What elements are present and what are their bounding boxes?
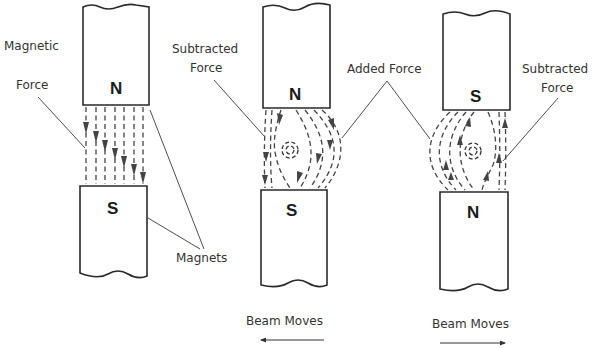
force-label: Force	[16, 78, 48, 92]
bottom-magnet-n: N	[440, 192, 508, 291]
beam-moves-caption: Beam Moves	[432, 317, 509, 331]
added-force-label: Added Force	[347, 62, 422, 76]
pole-label-s: S	[107, 199, 118, 218]
magnets-leader-bottom	[148, 218, 200, 249]
magnets-label: Magnets	[176, 251, 227, 265]
added-force-leader-right	[387, 81, 430, 139]
added-force-annotation: Added Force	[342, 62, 430, 139]
panel-beam-left: N S Subtracted Force	[172, 3, 341, 340]
subtracted-leader	[214, 80, 264, 136]
magnets-leader-top	[150, 110, 204, 249]
pole-label-n: N	[289, 85, 301, 104]
field-lines	[262, 110, 341, 188]
magnetic-label: Magnetic	[4, 39, 59, 53]
subtracted-label-line1: Subtracted	[172, 42, 238, 56]
top-magnet-n: N	[263, 3, 330, 108]
beam-cross-section	[465, 143, 481, 159]
pole-label-n: N	[467, 203, 479, 222]
top-magnet-n: N	[83, 4, 149, 105]
beam-cross-section	[282, 142, 298, 158]
bottom-magnet-s: S	[261, 190, 327, 287]
magnetic-beam-deflection-diagram: N S Magnetic Force Magnets	[0, 0, 602, 348]
subtracted-label-line2: Force	[190, 61, 222, 75]
field-lines	[83, 107, 146, 184]
beam-moves-caption: Beam Moves	[246, 314, 323, 328]
pole-label-s: S	[470, 87, 481, 106]
pole-label-n: N	[110, 79, 122, 98]
field-lines	[430, 112, 508, 190]
panel-beam-right: S N Subtracted Force	[430, 11, 588, 343]
subtracted-label-line1: Subtracted	[522, 62, 588, 76]
bottom-magnet-s: S	[80, 186, 147, 278]
force-leader	[38, 97, 85, 148]
top-magnet-s: S	[443, 11, 510, 110]
pole-label-s: S	[286, 201, 297, 220]
subtracted-leader	[503, 98, 558, 161]
subtracted-label-line2: Force	[541, 81, 573, 95]
added-force-leader-left	[342, 81, 387, 138]
